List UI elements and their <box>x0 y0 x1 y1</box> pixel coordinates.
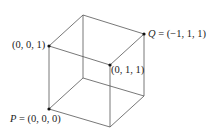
label-P-coords: = (0, 0, 0) <box>16 113 61 125</box>
edge-bottom-back <box>83 78 144 96</box>
label-Q-coords: = (−1, 1, 1) <box>156 28 207 40</box>
label-Q: Q = (−1, 1, 1) <box>148 28 206 40</box>
edge-top-back <box>83 15 144 34</box>
label-011: (0, 1, 1) <box>111 64 145 76</box>
edge-bottom-left <box>49 78 83 109</box>
edge-top-right <box>110 34 144 65</box>
cube-diagram: (0, 0, 1) (0, 1, 1) Q = (−1, 1, 1) P = (… <box>0 0 219 134</box>
point-001 <box>47 44 50 47</box>
label-P: P = (0, 0, 0) <box>9 113 61 125</box>
point-P <box>47 107 50 110</box>
point-Q <box>142 32 145 35</box>
edge-top-front <box>49 46 110 65</box>
edge-top-left <box>49 15 83 46</box>
label-001: (0, 0, 1) <box>12 39 46 51</box>
edge-bottom-right <box>110 96 144 127</box>
